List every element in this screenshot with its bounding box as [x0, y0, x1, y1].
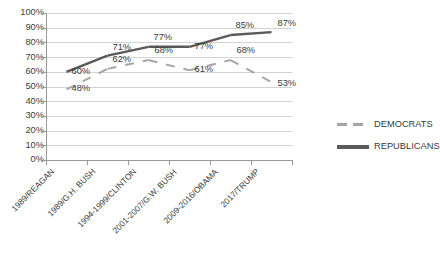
data-label: 85%: [236, 21, 255, 30]
legend-item-democrats[interactable]: DEMOCRATS: [337, 118, 427, 140]
data-label: 60%: [72, 67, 91, 76]
data-label: 61%: [195, 65, 214, 74]
data-label: 62%: [113, 55, 132, 64]
data-label: 68%: [237, 46, 256, 55]
legend-label-republicans: REPUBLICANS: [374, 142, 440, 151]
series-segment: [231, 60, 272, 82]
chart-legend: DEMOCRATS REPUBLICANS: [337, 118, 427, 162]
data-label: 53%: [278, 79, 297, 88]
data-label: 68%: [155, 46, 174, 55]
legend-swatch-democrats: [337, 123, 369, 126]
series-segment: [231, 32, 272, 35]
legend-label-democrats: DEMOCRATS: [374, 120, 433, 129]
legend-swatch-republicans: [337, 145, 369, 149]
series-democrats: [67, 60, 272, 89]
data-label: 77%: [154, 33, 173, 42]
legend-item-republicans[interactable]: REPUBLICANS: [337, 140, 427, 162]
data-label: 71%: [113, 43, 132, 52]
series-segment: [149, 60, 190, 70]
data-label: 77%: [195, 42, 214, 51]
data-label: 87%: [278, 19, 297, 28]
data-label: 48%: [72, 84, 91, 93]
